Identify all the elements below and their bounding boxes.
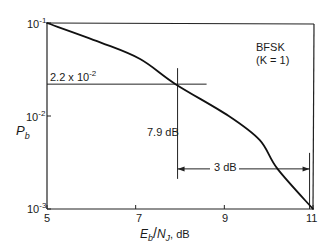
series-label-k: (K = 1) — [256, 55, 289, 66]
reference-lines — [47, 68, 310, 209]
arrow-left-icon — [178, 166, 185, 171]
y-tick-exponent: -2 — [38, 109, 45, 118]
y-axis-label: Pb — [16, 124, 30, 141]
reference-probability-label: 2.2 x 10-2 — [50, 70, 96, 83]
x-axis-label: Eb/NJ, dB — [140, 226, 190, 243]
right-frame-line — [313, 24, 314, 209]
x-tick-label-9: 9 — [222, 213, 228, 224]
y-tick-exponent: -1 — [39, 16, 46, 25]
y-tick-base: 10 — [26, 111, 38, 123]
y-tick-label-1e-2: 10-2 — [26, 110, 45, 123]
y-tick-label-1e-1: 10-1 — [27, 17, 46, 30]
x-label-unit: , dB — [170, 228, 190, 240]
arrow-right-icon — [303, 166, 310, 171]
x-label-n: N — [157, 227, 166, 241]
y-axis-label-sub: b — [25, 131, 30, 141]
x-tick-label-11: 11 — [306, 213, 317, 224]
y-tick-base: 10 — [27, 18, 39, 30]
series-label-bfsk: BFSK — [256, 42, 285, 53]
reference-probability-exponent: -2 — [89, 69, 96, 78]
x-tick-label-5: 5 — [44, 213, 50, 224]
x-tick-label-7: 7 — [136, 213, 142, 224]
y-tick-exponent: -3 — [39, 201, 46, 210]
delta-db-label: 3 dB — [212, 162, 239, 173]
y-axis-label-main: P — [16, 123, 25, 138]
reference-probability-base: 2.2 x 10 — [50, 71, 89, 83]
y-tick-base: 10 — [27, 203, 39, 215]
reference-db-label: 7.9 dB — [147, 127, 179, 138]
x-label-e: E — [140, 227, 148, 241]
top-frame-line — [47, 23, 314, 24]
